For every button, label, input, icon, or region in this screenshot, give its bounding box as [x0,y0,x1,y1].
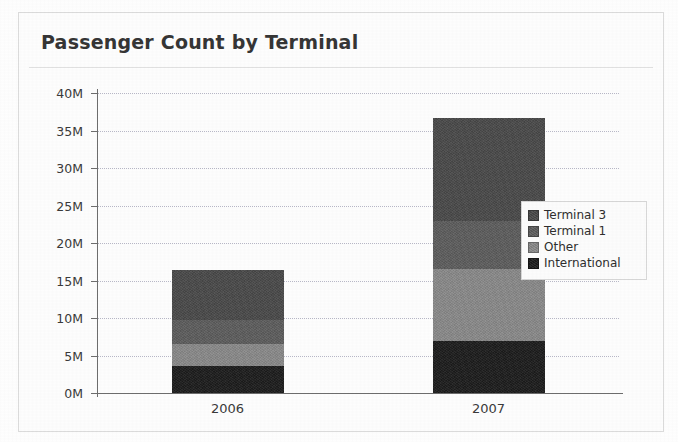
y-axis-tick-label: 35M [19,123,83,138]
y-axis-tick-label: 20M [19,236,83,251]
bar-segment[interactable] [433,341,545,394]
legend-item[interactable]: Terminal 3 [528,208,641,223]
y-axis-tick-label: 0M [19,386,83,401]
legend-item[interactable]: Other [528,240,641,255]
bar-stack[interactable] [172,93,284,393]
legend-color-swatch-icon [528,226,539,237]
y-axis-tick-label: 30M [19,161,83,176]
x-axis-line [93,393,623,394]
bar-segment[interactable] [172,366,284,393]
legend-item-label: Terminal 1 [544,225,606,238]
legend-color-swatch-icon [528,242,539,253]
bar-segment[interactable] [172,270,284,320]
bar-segment[interactable] [172,344,284,366]
x-axis-tick-label: 2006 [211,401,244,416]
legend-item-label: Terminal 3 [544,209,606,222]
y-axis-line [97,89,98,397]
legend-item-label: International [544,257,621,270]
y-axis-tick-label: 40M [19,86,83,101]
bar-segment[interactable] [172,320,284,345]
legend-item[interactable]: International [528,256,641,271]
legend-color-swatch-icon [528,258,539,269]
legend-color-swatch-icon [528,210,539,221]
y-axis-tick-label: 15M [19,273,83,288]
y-axis-tick-label: 25M [19,198,83,213]
chart-card: Passenger Count by Terminal 0M5M10M15M20… [18,12,664,432]
y-axis-tick-label: 5M [19,348,83,363]
legend-item-label: Other [544,241,578,254]
y-axis-tick-label: 10M [19,311,83,326]
legend-item[interactable]: Terminal 1 [528,224,641,239]
chart-legend: Terminal 3Terminal 1OtherInternational [521,201,647,280]
x-axis-tick-label: 2007 [472,401,505,416]
